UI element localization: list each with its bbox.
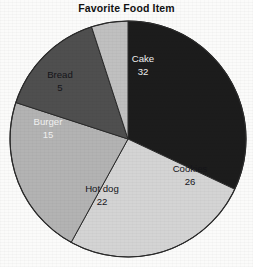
- slice-value: 26: [185, 176, 196, 187]
- slice-name: Burger: [34, 116, 64, 127]
- slice-name: Cookies: [173, 163, 208, 174]
- slice-name: Bread: [47, 69, 73, 80]
- slice-name: Cake: [132, 53, 154, 64]
- slice-value: 32: [138, 66, 149, 77]
- slice-value: 15: [43, 129, 54, 140]
- slice-name: Hot dog: [85, 183, 119, 194]
- slice-value: 22: [97, 196, 108, 207]
- chart-page: Favorite Food Item Cake32Cookies26Hot do…: [0, 0, 253, 267]
- pie-chart: Cake32Cookies26Hot dog22Burger15Bread5: [0, 0, 253, 267]
- slice-value: 5: [57, 82, 62, 93]
